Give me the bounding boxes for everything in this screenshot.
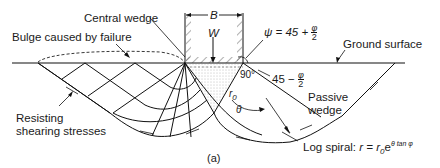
ground-surface-label: Ground surface (343, 38, 422, 50)
angle-90-label: 90° (240, 69, 255, 81)
angle-45-minus-phi-label: 45 − φ2 (272, 71, 304, 88)
log-spiral-label: Log spiral: r = r0eθ tan φ (303, 138, 413, 158)
load-label: W (208, 27, 219, 39)
r0-label: r0 (229, 88, 237, 104)
bulge-label: Bulge caused by failure (12, 31, 132, 43)
psi-angle-label: ψ = 45 + φ2 (264, 24, 317, 41)
resisting-stresses-label: Resisting shearing stresses (16, 112, 106, 138)
footing-width-label: B (210, 9, 218, 21)
theta-label: θ (236, 104, 241, 116)
bulge-dashed-line (38, 51, 185, 63)
central-wedge-label: Central wedge (84, 12, 158, 24)
passive-wedge-label: Passive wedge (308, 91, 348, 117)
panel-label: (a) (207, 152, 220, 164)
